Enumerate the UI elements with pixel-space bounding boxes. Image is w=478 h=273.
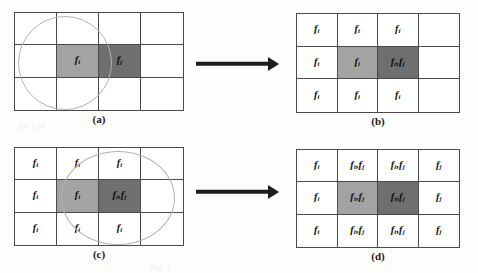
grid-cell-a-r1c2: fj — [99, 45, 141, 77]
cell-label: fj — [117, 55, 123, 66]
cell-label: fi — [354, 90, 360, 101]
arrow-a-to-b — [196, 56, 280, 71]
pixel-grid-c: fifififififi,fjfififi — [14, 147, 184, 246]
grid-cell-b-r0c1: fi — [338, 14, 379, 47]
grid-cell-b-r0c0: fi — [297, 14, 338, 47]
grid-cell-d-r0c3: fj — [419, 150, 460, 182]
grid-cell-a-r2c2 — [99, 78, 141, 110]
cell-label: fi — [395, 90, 401, 101]
grid-cell-b-r1c3 — [419, 47, 460, 80]
cell-label: fi,fj — [350, 160, 364, 171]
cell-label: fi — [354, 57, 360, 68]
grid-cell-d-r0c2: fi,fj — [378, 150, 419, 182]
cell-label: fi — [75, 158, 81, 169]
cell-label: fi — [117, 223, 123, 234]
pixel-grid-d: fifi,fjfi,fjfjfifi,fjfi,fjfjfifi,fjfi,fj… — [296, 149, 460, 248]
grid-cell-b-r0c3 — [419, 14, 460, 47]
cell-label: fi — [314, 192, 320, 203]
grid-cell-c-r0c2: fi — [99, 148, 141, 180]
grid-cell-c-r2c3 — [141, 213, 183, 245]
grid-cell-c-r1c1: fi — [57, 180, 99, 212]
cell-label: fi — [314, 90, 320, 101]
grid-cell-d-r1c3: fj — [419, 182, 460, 214]
grid-cell-c-r2c1: fi — [57, 213, 99, 245]
cell-label: fi,fj — [391, 57, 405, 68]
grid-cell-a-r0c0 — [15, 13, 57, 45]
grid-cell-c-r2c0: fi — [15, 213, 57, 245]
grid-cell-a-r2c1 — [57, 78, 99, 110]
grid-cell-a-r0c3 — [141, 13, 183, 45]
grid-cell-a-r1c0 — [15, 45, 57, 77]
grid-cell-d-r2c1: fi,fj — [338, 215, 379, 247]
cell-label: fi — [75, 190, 81, 201]
grid-cell-d-r0c0: fi — [297, 150, 338, 182]
grid-cell-b-r2c3 — [419, 79, 460, 112]
grid-cell-b-r2c0: fi — [297, 79, 338, 112]
pixel-grid-a: fifj — [14, 12, 184, 111]
cell-label: fi — [33, 223, 39, 234]
grid-cell-a-r0c1 — [57, 13, 99, 45]
cell-label: fi — [75, 223, 81, 234]
grid-cell-c-r1c3 — [141, 180, 183, 212]
cell-label: fi — [314, 57, 320, 68]
grid-cell-c-r1c2: fi,fj — [99, 180, 141, 212]
cell-label: fi — [354, 24, 360, 35]
grid-cell-d-r2c3: fj — [419, 215, 460, 247]
figure-container: fifj (a) fifififififi,fjfififi (b) fifif… — [0, 0, 478, 273]
grid-cell-c-r0c3 — [141, 148, 183, 180]
grid-cell-c-r2c2: fi — [99, 213, 141, 245]
grid-cell-d-r1c2: fi,fj — [378, 182, 419, 214]
grid-cell-a-r2c0 — [15, 78, 57, 110]
scan-artifact: the a of — [18, 121, 45, 131]
grid-cell-b-r1c1: fi — [338, 47, 379, 80]
cell-label: fj — [436, 160, 442, 171]
grid-cell-c-r1c0: fi — [15, 180, 57, 212]
grid-cell-d-r2c0: fi — [297, 215, 338, 247]
arrow-shaft — [196, 189, 270, 194]
cell-label: fi — [75, 55, 81, 66]
pixel-grid-b: fifififififi,fjfififi — [296, 13, 460, 113]
grid-cell-d-r0c1: fi,fj — [338, 150, 379, 182]
grid-cell-d-r1c1: fi,fj — [338, 182, 379, 214]
cell-label: fj — [436, 225, 442, 236]
arrow-shaft — [196, 61, 270, 66]
cell-label: fi — [117, 158, 123, 169]
cell-label: fi,fj — [391, 225, 405, 236]
arrow-c-to-d — [196, 184, 280, 199]
cell-label: fi,fj — [391, 160, 405, 171]
panel-caption-c: (c) — [69, 248, 129, 260]
grid-cell-a-r2c3 — [141, 78, 183, 110]
arrow-head — [268, 57, 279, 71]
grid-cell-b-r1c0: fi — [297, 47, 338, 80]
cell-label: fi — [33, 190, 39, 201]
cell-label: fi — [314, 24, 320, 35]
cell-label: fi,fj — [391, 192, 405, 203]
grid-cell-a-r0c2 — [99, 13, 141, 45]
grid-cell-a-r1c3 — [141, 45, 183, 77]
panel-caption-d: (d) — [348, 250, 408, 262]
cell-label: fi — [33, 158, 39, 169]
grid-cell-b-r2c1: fi — [338, 79, 379, 112]
grid-cell-b-r0c2: fi — [378, 14, 419, 47]
arrow-head — [268, 185, 279, 199]
grid-cell-b-r2c2: fi — [378, 79, 419, 112]
cell-label: fi — [314, 225, 320, 236]
cell-label: fi — [395, 24, 401, 35]
grid-cell-d-r1c0: fi — [297, 182, 338, 214]
cell-label: fi — [314, 160, 320, 171]
grid-cell-c-r0c0: fi — [15, 148, 57, 180]
cell-label: fj — [436, 192, 442, 203]
grid-cell-a-r1c1: fi — [57, 45, 99, 77]
grid-cell-b-r1c2: fi,fj — [378, 47, 419, 80]
cell-label: fi,fj — [112, 190, 126, 201]
grid-cell-d-r2c2: fi,fj — [378, 215, 419, 247]
cell-label: fi,fj — [350, 225, 364, 236]
panel-caption-a: (a) — [69, 113, 129, 125]
cell-label: fi,fj — [350, 192, 364, 203]
grid-cell-c-r0c1: fi — [57, 148, 99, 180]
scan-artifact: Fig. 2 — [150, 262, 171, 272]
panel-caption-b: (b) — [348, 115, 408, 127]
